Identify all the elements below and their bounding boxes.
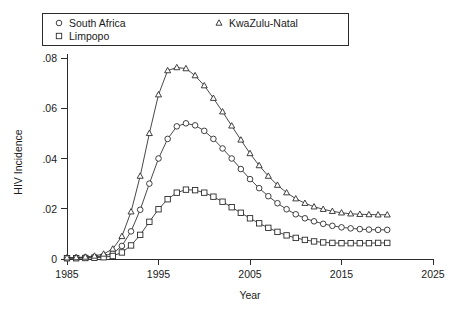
y-axis-title: HIV Incidence (12, 129, 24, 195)
square-marker-icon (211, 194, 216, 199)
square-marker-icon (110, 253, 115, 258)
x-tick-label: 2015 (330, 268, 354, 280)
circle-marker-icon (339, 225, 345, 231)
chart-legend: South AfricaLimpopoKwaZulu-Natal (42, 13, 348, 45)
square-marker-icon (275, 229, 280, 234)
circle-marker-icon (247, 176, 253, 182)
square-marker-icon (165, 197, 170, 202)
square-marker-icon (156, 207, 161, 212)
circle-marker-icon (293, 211, 299, 217)
circle-marker-icon (183, 121, 189, 127)
circle-marker-icon (192, 123, 198, 129)
circle-marker-icon (384, 227, 390, 233)
circle-marker-icon (357, 226, 363, 232)
y-tick-label: .08 (42, 52, 57, 64)
circle-marker-icon (266, 193, 272, 199)
square-marker-icon (256, 221, 261, 226)
square-marker-icon (385, 240, 390, 245)
x-tick-label: 1995 (147, 268, 171, 280)
y-tick-label: .04 (42, 153, 57, 165)
circle-marker-icon (366, 227, 372, 233)
circle-marker-icon (174, 124, 180, 130)
square-marker-icon (229, 205, 234, 210)
square-marker-icon (138, 232, 143, 237)
x-tick-label: 2025 (421, 268, 445, 280)
legend-label: South Africa (69, 17, 126, 29)
square-marker-icon (192, 187, 197, 192)
square-marker-icon (366, 240, 371, 245)
square-marker-icon (311, 239, 316, 244)
square-marker-icon (147, 219, 152, 224)
circle-marker-icon (375, 227, 381, 233)
square-marker-icon (375, 240, 380, 245)
square-marker-icon (202, 190, 207, 195)
circle-marker-icon (211, 136, 217, 142)
y-tick-label: .02 (42, 203, 57, 215)
circle-marker-icon (284, 206, 290, 212)
circle-marker-icon (201, 128, 207, 134)
square-marker-icon (174, 190, 179, 195)
square-marker-icon (266, 225, 271, 230)
square-marker-icon (348, 240, 353, 245)
circle-marker-icon (275, 200, 281, 206)
square-marker-icon (128, 243, 133, 248)
circle-marker-icon (220, 146, 226, 152)
circle-marker-icon (128, 229, 134, 235)
circle-marker-icon (256, 185, 262, 191)
square-marker-icon (247, 216, 252, 221)
square-marker-icon (183, 187, 188, 192)
x-axis-title: Year (239, 289, 261, 301)
circle-marker-icon (320, 221, 326, 227)
chart-canvas: South AfricaLimpopoKwaZulu-Natal 1985199… (0, 0, 466, 319)
legend-label: KwaZulu-Natal (229, 17, 298, 29)
y-tick-label: .06 (42, 102, 57, 114)
circle-marker-icon (311, 219, 317, 225)
circle-marker-icon (302, 215, 308, 221)
square-marker-icon (119, 250, 124, 255)
y-tick-label: 0 (51, 253, 57, 265)
square-marker-icon (330, 240, 335, 245)
square-marker-icon (220, 199, 225, 204)
hiv-incidence-chart: South AfricaLimpopoKwaZulu-Natal 1985199… (0, 0, 466, 319)
legend-label: Limpopo (69, 30, 109, 42)
circle-marker-icon (56, 20, 62, 26)
circle-marker-icon (165, 136, 171, 142)
x-tick-label: 1985 (55, 268, 79, 280)
square-marker-icon (56, 33, 61, 38)
circle-marker-icon (119, 243, 125, 249)
square-marker-icon (238, 210, 243, 215)
circle-marker-icon (147, 181, 153, 187)
x-tick-label: 2005 (238, 268, 262, 280)
circle-marker-icon (156, 156, 162, 162)
legend-entry: KwaZulu-Natal (216, 17, 298, 29)
square-marker-icon (284, 233, 289, 238)
square-marker-icon (357, 240, 362, 245)
square-marker-icon (302, 237, 307, 242)
square-marker-icon (293, 235, 298, 240)
circle-marker-icon (137, 207, 143, 213)
circle-marker-icon (238, 166, 244, 172)
circle-marker-icon (348, 226, 354, 232)
circle-marker-icon (229, 156, 235, 162)
circle-marker-icon (330, 223, 336, 229)
square-marker-icon (321, 240, 326, 245)
square-marker-icon (339, 240, 344, 245)
